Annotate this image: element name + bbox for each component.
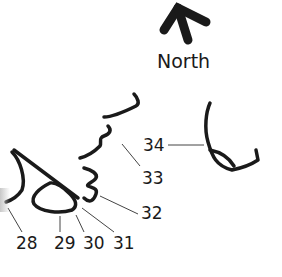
callout-32: 32 (141, 205, 163, 222)
callout-30: 30 (83, 235, 105, 252)
callout-34: 34 (143, 137, 165, 154)
feature-29 (33, 183, 76, 212)
edge-shadow (0, 188, 10, 212)
feature-34 (206, 103, 258, 170)
callout-31: 31 (113, 235, 135, 252)
leader-lines (8, 144, 204, 232)
callout-33: 33 (142, 170, 164, 187)
callout-29: 29 (54, 235, 76, 252)
diagram-canvas: North 28 29 30 31 32 33 34 (0, 0, 282, 277)
feature-33 (80, 126, 110, 158)
feature-upper (104, 94, 138, 117)
callout-28: 28 (16, 235, 38, 252)
north-arrow-icon (164, 8, 206, 40)
sketch-drawing (0, 0, 282, 277)
north-label: North (157, 52, 210, 71)
feature-32 (84, 168, 96, 201)
